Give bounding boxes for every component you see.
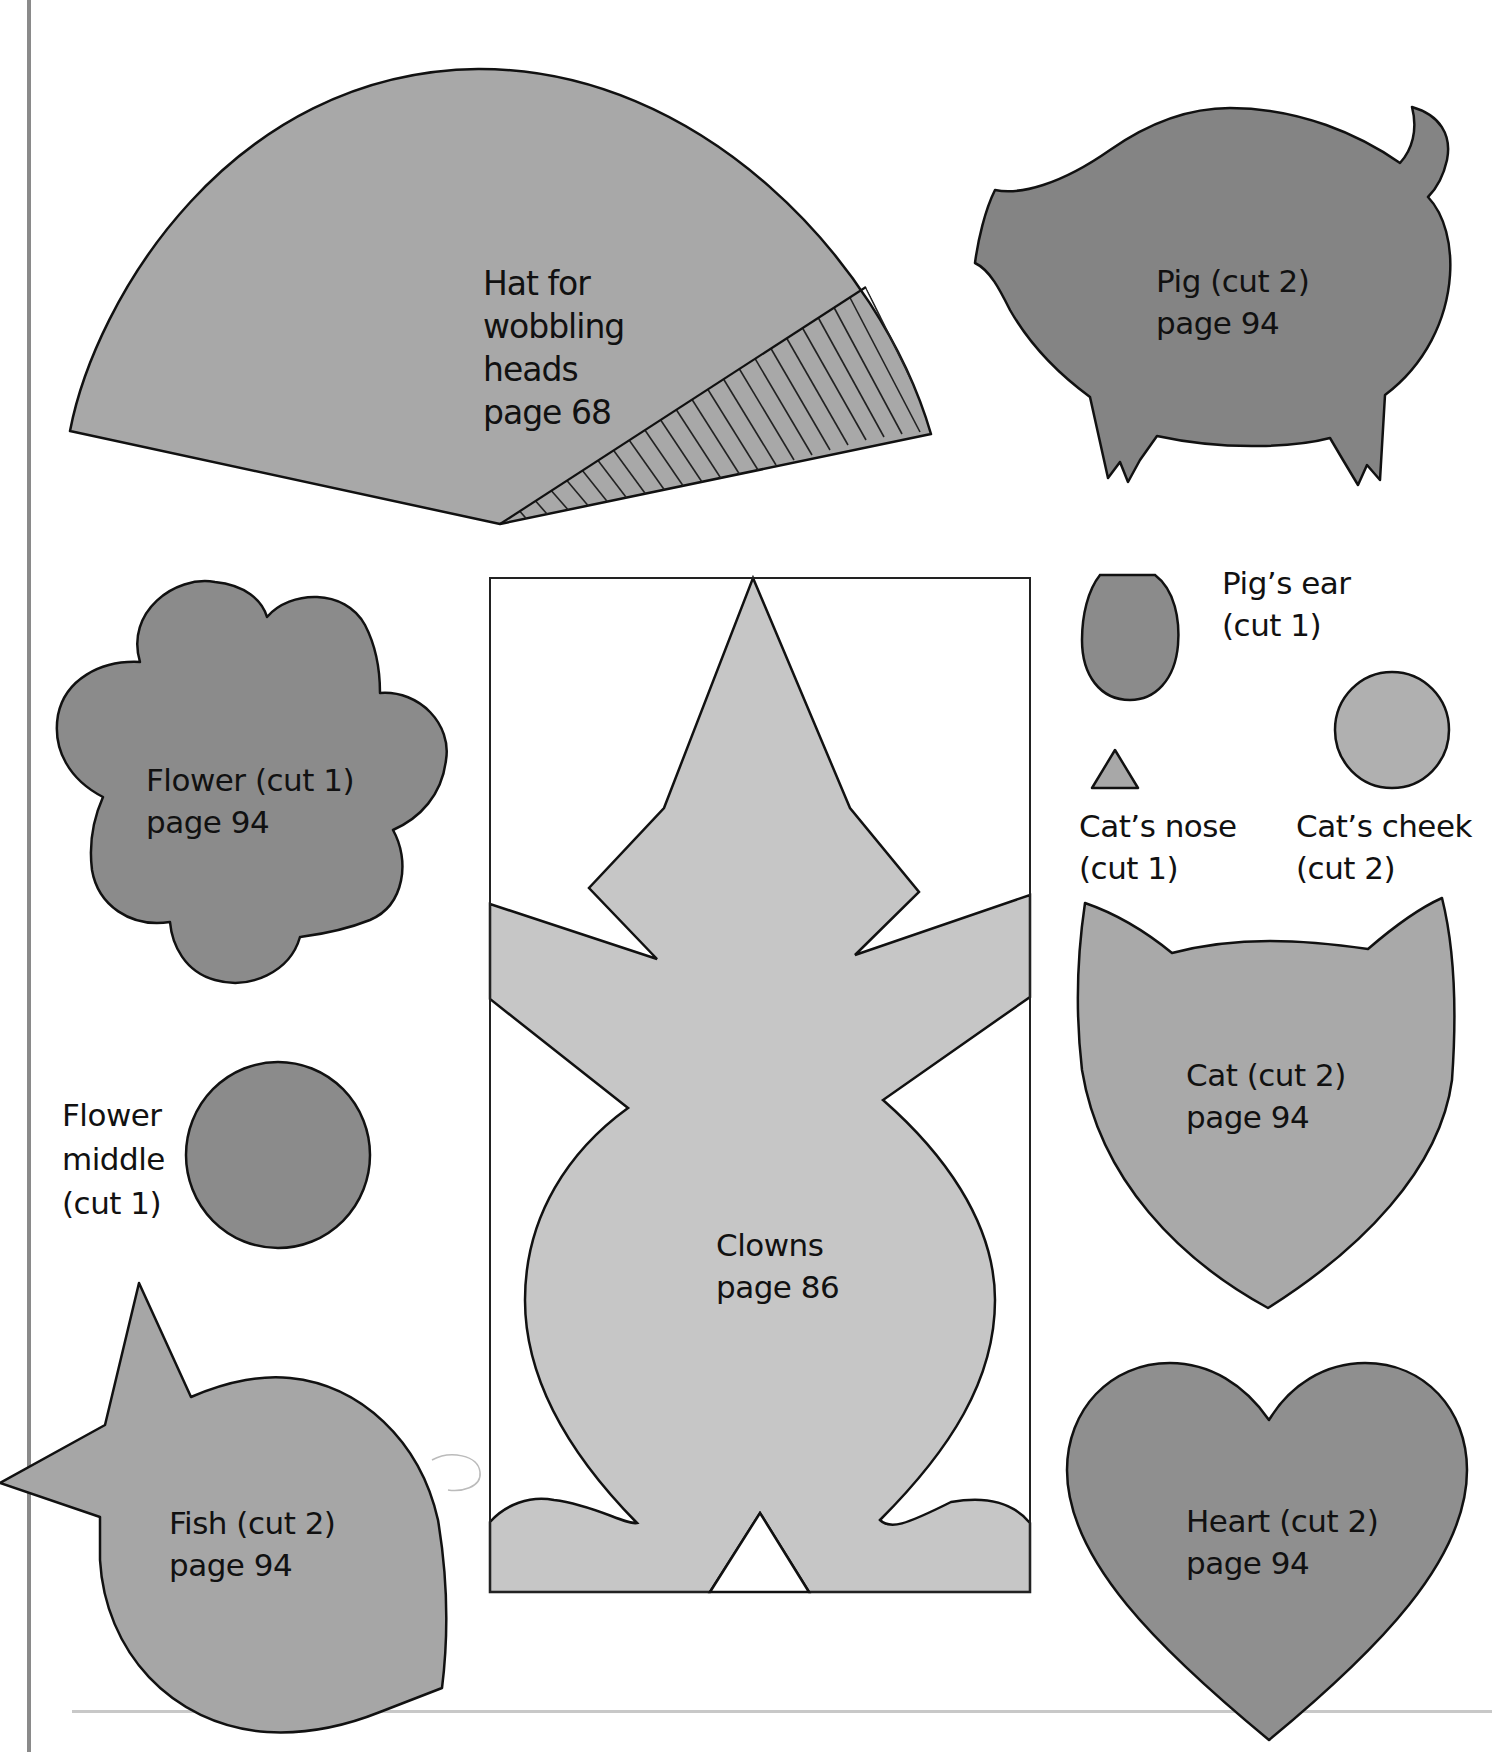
clowns-label-line: Clowns (716, 1224, 839, 1266)
flower-label: Flower (cut 1) page 94 (146, 759, 354, 843)
hat-label-line: wobbling (483, 305, 624, 348)
cat-cheek-shape (1335, 672, 1449, 788)
cat-label-line: Cat (cut 2) (1186, 1054, 1346, 1096)
fish-label-line: page 94 (169, 1544, 335, 1586)
cat-nose-shape (1092, 750, 1138, 788)
pig-label-line: page 94 (1156, 302, 1309, 344)
hat-label-line: heads (483, 348, 624, 391)
cat-nose-label: Cat’s nose (cut 1) (1079, 805, 1237, 889)
template-page: Hat for wobbling heads page 68 Pig (cut … (0, 0, 1511, 1752)
fish-label-line: Fish (cut 2) (169, 1502, 335, 1544)
cat-label: Cat (cut 2) page 94 (1186, 1054, 1346, 1138)
flower-label-line: Flower (cut 1) (146, 759, 354, 801)
hat-label: Hat for wobbling heads page 68 (483, 262, 624, 434)
cat-cheek-label-line: Cat’s cheek (1296, 805, 1472, 847)
cat-label-line: page 94 (1186, 1096, 1346, 1138)
flower-middle-shape (186, 1062, 370, 1248)
flower-middle-label-line: middle (62, 1137, 165, 1181)
pig-ear-shape (1082, 575, 1178, 700)
pig-label: Pig (cut 2) page 94 (1156, 260, 1309, 344)
flower-middle-label-line: Flower (62, 1093, 165, 1137)
heart-label-line: Heart (cut 2) (1186, 1500, 1378, 1542)
cat-cheek-label-line: (cut 2) (1296, 847, 1472, 889)
cat-cheek-label: Cat’s cheek (cut 2) (1296, 805, 1472, 889)
flower-middle-label: Flower middle (cut 1) (62, 1093, 165, 1225)
fish-label: Fish (cut 2) page 94 (169, 1502, 335, 1586)
flower-label-line: page 94 (146, 801, 354, 843)
pig-ear-label: Pig’s ear (cut 1) (1222, 562, 1350, 646)
cat-nose-label-line: (cut 1) (1079, 847, 1237, 889)
stray-mark (432, 1455, 480, 1491)
clowns-label: Clowns page 86 (716, 1224, 839, 1308)
flower-middle-label-line: (cut 1) (62, 1181, 165, 1225)
heart-label: Heart (cut 2) page 94 (1186, 1500, 1378, 1584)
hat-label-line: page 68 (483, 391, 624, 434)
clowns-label-line: page 86 (716, 1266, 839, 1308)
cat-nose-label-line: Cat’s nose (1079, 805, 1237, 847)
hat-label-line: Hat for (483, 262, 624, 305)
pig-label-line: Pig (cut 2) (1156, 260, 1309, 302)
pig-ear-label-line: (cut 1) (1222, 604, 1350, 646)
pig-ear-label-line: Pig’s ear (1222, 562, 1350, 604)
heart-label-line: page 94 (1186, 1542, 1378, 1584)
